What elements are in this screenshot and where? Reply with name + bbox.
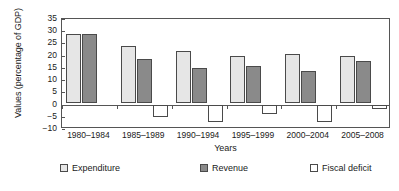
bar-chart-figure: Values (percentage of GDP) 3530252015105…: [0, 0, 399, 191]
bar-revenue: [192, 68, 207, 102]
legend-swatch-icon: [310, 164, 318, 172]
bar-expenditure: [176, 51, 191, 102]
x-tick-mark: [281, 105, 282, 109]
x-tick-mark: [117, 105, 118, 109]
x-axis-tick-labels: 1980–19841985–19891990–19941995–19992000…: [61, 130, 390, 142]
bar-expenditure: [285, 54, 300, 103]
bar-fiscal-deficit: [208, 105, 223, 122]
x-tick-label: 2000–2004: [286, 130, 329, 140]
plot-area: [61, 18, 390, 128]
chart-legend: ExpenditureRevenueFiscal deficit: [40, 163, 390, 179]
bar-group: [172, 19, 227, 127]
legend-item-revenue: Revenue: [200, 163, 248, 173]
legend-label: Fiscal deficit: [322, 163, 372, 173]
bar-fiscal-deficit: [262, 105, 277, 115]
y-axis-tick-labels: 35302520151050−5−10: [31, 18, 57, 128]
bar-revenue: [356, 61, 371, 103]
bar-fiscal-deficit: [153, 105, 168, 117]
bar-revenue: [82, 34, 97, 102]
x-tick-mark: [172, 105, 173, 109]
bar-revenue: [301, 71, 316, 103]
bar-group: [227, 19, 282, 127]
y-tick-label: 0: [31, 100, 57, 108]
x-tick-label: 1980–1984: [67, 130, 110, 140]
legend-item-expenditure: Expenditure: [60, 163, 120, 173]
legend-label: Expenditure: [72, 163, 120, 173]
y-tick-label: 30: [31, 26, 57, 34]
x-tick-label: 1995–1999: [232, 130, 275, 140]
legend-swatch-icon: [60, 164, 68, 172]
x-tick-label: 1990–1994: [177, 130, 220, 140]
bar-fiscal-deficit: [317, 105, 332, 122]
bar-expenditure: [340, 56, 355, 102]
bar-expenditure: [121, 46, 136, 102]
x-tick-mark: [227, 105, 228, 109]
x-tick-mark: [336, 105, 337, 109]
bar-group: [336, 19, 391, 127]
bar-expenditure: [230, 56, 245, 102]
legend-swatch-icon: [200, 164, 208, 172]
y-tick-label: −5: [31, 112, 57, 120]
plot-inner: [62, 19, 389, 127]
bar-group: [62, 19, 117, 127]
legend-label: Revenue: [212, 163, 248, 173]
bar-group: [117, 19, 172, 127]
y-tick-label: 15: [31, 63, 57, 71]
y-tick-label: 20: [31, 51, 57, 59]
x-axis-title: Years: [61, 143, 390, 153]
x-tick-label: 1985–1989: [122, 130, 165, 140]
y-tick-label: 10: [31, 75, 57, 83]
y-tick-label: 5: [31, 87, 57, 95]
x-tick-label: 2005–2008: [341, 130, 384, 140]
y-tick-label: 25: [31, 38, 57, 46]
legend-item-fiscal-deficit: Fiscal deficit: [310, 163, 372, 173]
y-tick-label: 35: [31, 14, 57, 22]
y-axis-title: Values (percentage of GDP): [13, 0, 23, 133]
x-tick-mark: [62, 105, 63, 109]
bar-fiscal-deficit: [372, 105, 387, 110]
bar-revenue: [246, 66, 261, 103]
y-tick-label: −10: [31, 124, 57, 132]
bar-group: [281, 19, 336, 127]
bar-expenditure: [66, 34, 81, 102]
bar-revenue: [137, 59, 152, 103]
